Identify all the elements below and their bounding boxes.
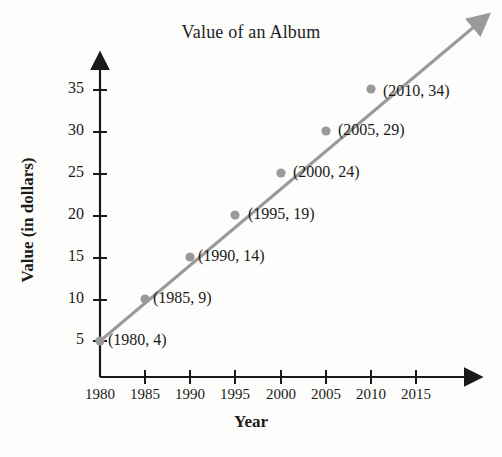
data-point-1995 [230, 210, 239, 219]
y-tick-label-25: 25 [44, 163, 84, 181]
data-point-1990 [185, 252, 194, 261]
point-annotation-1980: (1980, 4) [108, 331, 167, 349]
data-point-2005 [321, 126, 330, 135]
data-point-markers [95, 84, 375, 345]
point-annotation-1985: (1985, 9) [153, 289, 212, 307]
point-annotation-1990: (1990, 14) [198, 247, 265, 265]
y-tick-label-15: 15 [44, 247, 84, 265]
data-point-1980 [95, 336, 104, 345]
y-tick-label-20: 20 [44, 205, 84, 223]
y-tick-label-30: 30 [44, 121, 84, 139]
point-annotation-2010: (2010, 34) [383, 82, 450, 100]
chart-figure: Value of an Album Value (in dollars) Yea… [0, 0, 502, 457]
point-annotation-1995: (1995, 19) [248, 205, 315, 223]
data-point-1985 [140, 294, 149, 303]
y-tick-label-10: 10 [44, 289, 84, 307]
data-point-2010 [366, 84, 375, 93]
x-tick-label-2015: 2015 [388, 386, 444, 403]
point-annotation-2005: (2005, 29) [338, 121, 405, 139]
y-tick-label-5: 5 [44, 330, 84, 348]
y-tick-label-35: 35 [44, 79, 84, 97]
data-point-2000 [276, 168, 285, 177]
point-annotation-2000: (2000, 24) [293, 163, 360, 181]
